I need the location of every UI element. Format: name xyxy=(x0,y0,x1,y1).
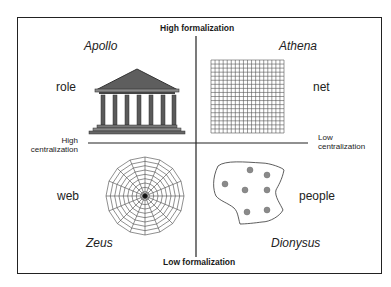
god-label-zeus: Zeus xyxy=(86,236,113,250)
axis-label-low-formalization: Low formalization xyxy=(163,257,235,267)
god-label-dionysus: Dionysus xyxy=(271,236,320,250)
metaphor-label-role: role xyxy=(56,80,76,94)
axis-label-line: Low xyxy=(318,133,365,142)
god-label-apollo: Apollo xyxy=(84,39,117,53)
people-cluster-icon xyxy=(214,162,284,224)
metaphor-label-net: net xyxy=(313,80,330,94)
axis-label-high-formalization: High formalization xyxy=(160,23,234,33)
metaphor-label-web: web xyxy=(57,189,79,203)
axis-label-low-centralization: Low centralization xyxy=(318,133,365,151)
metaphor-label-people: people xyxy=(299,189,335,203)
spider-web-icon xyxy=(106,157,184,235)
axis-label-high-centralization: High centralization xyxy=(31,136,78,154)
temple-icon xyxy=(89,69,185,134)
axis-label-line: High xyxy=(31,136,78,145)
grid-net-icon xyxy=(211,60,284,133)
axis-label-line: centralization xyxy=(31,145,78,154)
god-label-athena: Athena xyxy=(279,39,317,53)
axis-label-line: centralization xyxy=(318,142,365,151)
